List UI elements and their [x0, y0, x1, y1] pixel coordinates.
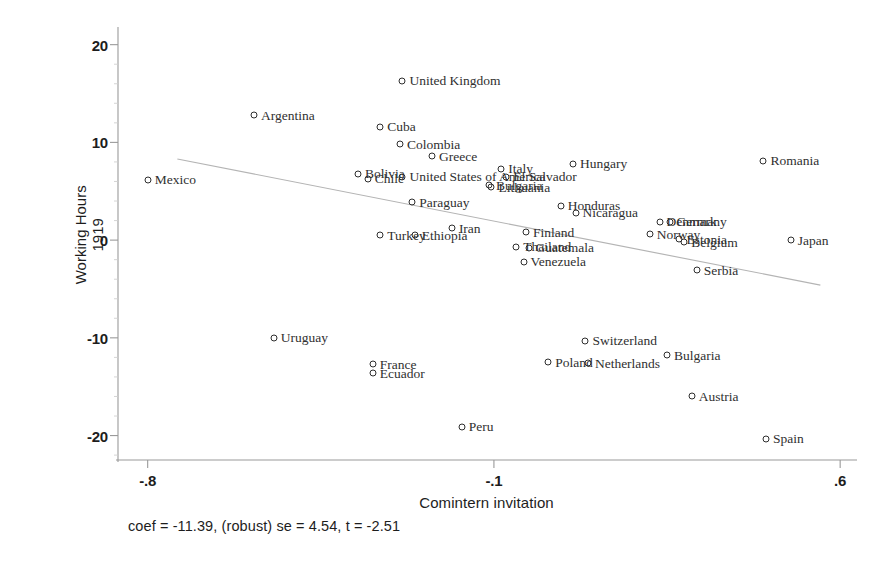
data-point-label: Netherlands	[595, 356, 660, 372]
data-point-marker	[354, 170, 361, 177]
data-point-marker	[377, 232, 384, 239]
x-axis-title: Comintern invitation	[118, 494, 855, 511]
data-point-label: Greece	[439, 149, 477, 165]
data-point-label: Mexico	[155, 172, 196, 188]
data-point-label: Cuba	[387, 119, 416, 135]
data-point-marker	[251, 112, 258, 119]
data-point-marker	[377, 123, 384, 130]
x-tick-label: -.8	[139, 472, 156, 489]
data-point-marker	[557, 202, 564, 209]
data-point-label: Nicaragua	[583, 205, 638, 221]
data-point-marker	[570, 160, 577, 167]
y-tick-label: -20	[60, 427, 108, 444]
data-point-label: Iran	[459, 221, 481, 237]
y-tick-label: 10	[60, 134, 108, 151]
data-point-marker	[681, 239, 688, 246]
data-point-marker	[787, 237, 794, 244]
data-point-marker	[520, 258, 527, 265]
data-point-label: Bulgaria	[674, 348, 721, 364]
y-tick-label: 20	[60, 36, 108, 53]
data-point-label: Uruguay	[281, 330, 328, 346]
data-point-label: Spain	[773, 431, 804, 447]
data-point-marker	[666, 218, 673, 225]
data-point-label: United Kingdom	[409, 73, 500, 89]
data-point-marker	[523, 229, 530, 236]
data-point-marker	[525, 244, 532, 251]
data-point-marker	[448, 225, 455, 232]
data-point-label: Paraguay	[419, 195, 469, 211]
data-point-marker	[396, 141, 403, 148]
data-point-marker	[399, 77, 406, 84]
data-point-marker	[545, 359, 552, 366]
data-point-marker	[488, 184, 495, 191]
data-point-marker	[429, 153, 436, 160]
data-point-marker	[584, 360, 591, 367]
regression-annotation: coef = -11.39, (robust) se = 4.54, t = -…	[128, 518, 400, 534]
data-point-marker	[270, 334, 277, 341]
x-tick-label: -.1	[485, 472, 502, 489]
data-point-label: Finland	[533, 225, 574, 241]
data-point-marker	[572, 209, 579, 216]
data-point-marker	[646, 231, 653, 238]
data-point-marker	[693, 267, 700, 274]
data-point-label: Argentina	[261, 108, 315, 124]
data-point-marker	[364, 175, 371, 182]
data-point-label: Serbia	[704, 263, 739, 279]
y-tick-label: 0	[60, 232, 108, 249]
data-point-marker	[582, 337, 589, 344]
data-point-marker	[513, 243, 520, 250]
data-point-marker	[369, 370, 376, 377]
data-point-label: Belgium	[691, 235, 738, 251]
data-point-marker	[688, 393, 695, 400]
data-point-label: Austria	[699, 389, 739, 405]
data-point-marker	[760, 157, 767, 164]
data-point-label: Switzerland	[592, 333, 656, 349]
data-point-marker	[458, 423, 465, 430]
data-point-marker	[144, 176, 151, 183]
data-point-label: Hungary	[580, 156, 627, 172]
data-point-marker	[762, 435, 769, 442]
data-point-label: Peru	[469, 419, 494, 435]
data-point-label: Turkey	[387, 228, 426, 244]
data-point-label: Romania	[770, 153, 819, 169]
data-point-marker	[656, 218, 663, 225]
data-point-marker	[409, 199, 416, 206]
data-point-marker	[664, 352, 671, 359]
data-point-marker	[411, 232, 418, 239]
data-point-label: Japan	[798, 233, 829, 249]
data-point-label: Venezuela	[531, 254, 586, 270]
data-point-marker	[498, 165, 505, 172]
data-point-marker	[399, 173, 406, 180]
x-tick-label: .6	[834, 472, 846, 489]
data-point-label: Lithuania	[498, 180, 550, 196]
scatter-plot: Working Hours 1919 Comintern invitation …	[0, 0, 889, 563]
data-point-label: Ecuador	[380, 366, 425, 382]
y-tick-label: -10	[60, 329, 108, 346]
data-point-marker	[369, 361, 376, 368]
